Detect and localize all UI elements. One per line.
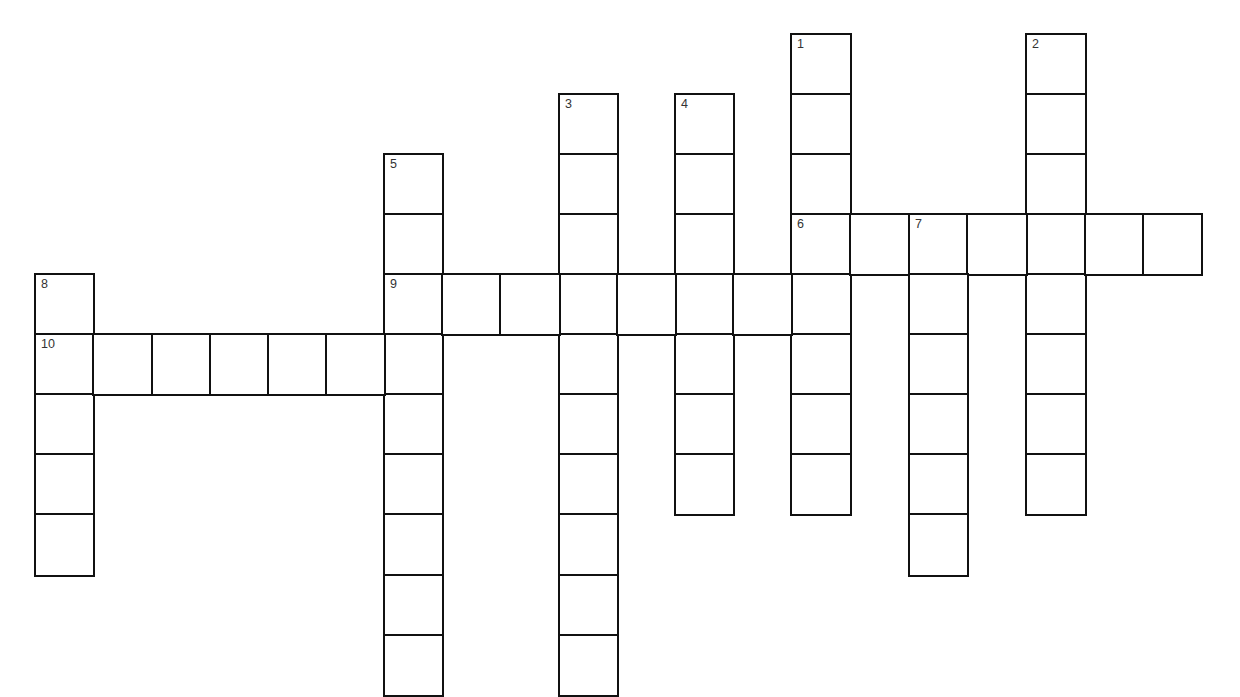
crossword-cell[interactable]: [499, 273, 561, 336]
clue-number: 3: [565, 97, 572, 111]
clue-number: 4: [681, 97, 688, 111]
crossword-cell[interactable]: [790, 273, 852, 336]
crossword-cell[interactable]: [558, 513, 619, 577]
crossword-cell[interactable]: [558, 393, 619, 456]
crossword-cell[interactable]: [674, 453, 735, 516]
crossword-cell[interactable]: [1084, 213, 1145, 276]
clue-number: 5: [390, 157, 397, 171]
crossword-cell[interactable]: [908, 453, 969, 516]
crossword-cell[interactable]: 1: [790, 33, 852, 96]
crossword-cell[interactable]: [1025, 213, 1087, 276]
crossword-cell[interactable]: [616, 273, 677, 336]
clue-number: 2: [1032, 37, 1039, 51]
crossword-cell[interactable]: [558, 333, 619, 396]
crossword-cell[interactable]: [674, 393, 735, 456]
crossword-cell[interactable]: [383, 634, 444, 697]
crossword-cell[interactable]: [1142, 213, 1203, 276]
crossword-cell[interactable]: [1025, 333, 1087, 396]
crossword-cell[interactable]: [849, 213, 911, 276]
crossword-cell[interactable]: [383, 574, 444, 637]
crossword-cell[interactable]: [558, 273, 619, 336]
crossword-cell[interactable]: [674, 153, 735, 216]
clue-number: 7: [915, 217, 922, 231]
crossword-cell[interactable]: [1025, 153, 1087, 216]
clue-number: 1: [797, 37, 804, 51]
crossword-cell[interactable]: [1025, 393, 1087, 456]
clue-number: 6: [797, 217, 804, 231]
crossword-cell[interactable]: 6: [790, 213, 852, 276]
clue-number: 10: [41, 337, 55, 351]
crossword-cell[interactable]: [790, 333, 852, 396]
clue-number: 8: [41, 277, 48, 291]
crossword-cell[interactable]: [325, 333, 386, 396]
crossword-cell[interactable]: [267, 333, 328, 396]
crossword-cell[interactable]: [790, 453, 852, 516]
crossword-cell[interactable]: [151, 333, 212, 396]
crossword-cell[interactable]: [34, 393, 95, 456]
crossword-cell[interactable]: [383, 513, 444, 577]
crossword-cell[interactable]: [558, 574, 619, 637]
crossword-cell[interactable]: [441, 273, 502, 336]
crossword-cell[interactable]: [34, 513, 95, 577]
crossword-cell[interactable]: [674, 213, 735, 276]
crossword-cell[interactable]: [790, 93, 852, 156]
crossword-cell[interactable]: 7: [908, 213, 969, 276]
crossword-cell[interactable]: [558, 453, 619, 516]
crossword-cell[interactable]: [34, 453, 95, 516]
crossword-cell[interactable]: [92, 333, 154, 396]
crossword-cell[interactable]: 2: [1025, 33, 1087, 96]
crossword-cell[interactable]: [558, 153, 619, 216]
crossword-cell[interactable]: 4: [674, 93, 735, 156]
crossword-cell[interactable]: [209, 333, 270, 396]
crossword-cell[interactable]: [558, 213, 619, 276]
crossword-cell[interactable]: 3: [558, 93, 619, 156]
crossword-cell[interactable]: [383, 213, 444, 276]
crossword-cell[interactable]: [790, 393, 852, 456]
crossword-cell[interactable]: [966, 213, 1028, 276]
crossword-cell[interactable]: [908, 333, 969, 396]
crossword-cell[interactable]: 5: [383, 153, 444, 216]
crossword-cell[interactable]: [1025, 273, 1087, 336]
clue-number: 9: [390, 277, 397, 291]
crossword-cell[interactable]: [732, 273, 793, 336]
crossword-cell[interactable]: [674, 273, 735, 336]
crossword-cell[interactable]: [1025, 93, 1087, 156]
crossword-cell[interactable]: [1025, 453, 1087, 516]
crossword-cell[interactable]: [674, 333, 735, 396]
crossword-cell[interactable]: [383, 333, 444, 396]
crossword-cell[interactable]: 10: [34, 333, 95, 396]
crossword-cell[interactable]: [790, 153, 852, 216]
crossword-cell[interactable]: [383, 453, 444, 516]
crossword-cell[interactable]: [908, 513, 969, 577]
crossword-cell[interactable]: 9: [383, 273, 444, 336]
crossword-cell[interactable]: [558, 634, 619, 697]
crossword-cell[interactable]: 8: [34, 273, 95, 336]
crossword-cell[interactable]: [383, 393, 444, 456]
crossword-cell[interactable]: [908, 273, 969, 336]
crossword-cell[interactable]: [908, 393, 969, 456]
